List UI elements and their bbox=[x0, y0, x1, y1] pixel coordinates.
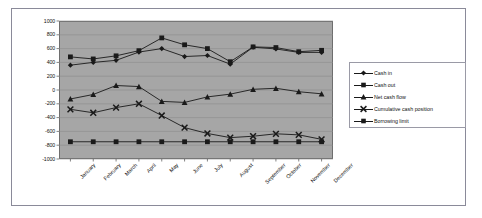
legend-label: Cumulative cash position bbox=[374, 106, 433, 112]
legend-marker-cross-icon bbox=[354, 104, 373, 114]
legend-marker-square-icon bbox=[354, 116, 373, 126]
legend-marker-diamond-icon bbox=[354, 68, 373, 78]
legend-marker-square-icon bbox=[354, 80, 373, 90]
legend-label: Borrowing limit bbox=[374, 118, 409, 124]
legend-item-net-cash-flow[interactable]: Net cash flow bbox=[354, 91, 406, 103]
legend-marker-triangle-icon bbox=[354, 92, 373, 102]
series-net-cash-flow bbox=[68, 83, 325, 105]
legend-item-cash-out[interactable]: Cash out bbox=[354, 79, 395, 91]
series-borrowing-limit bbox=[68, 139, 324, 144]
legend-label: Cash in bbox=[374, 70, 392, 76]
legend-label: Net cash flow bbox=[374, 94, 406, 100]
chart-legend: Cash inCash outNet cash flowCumulative c… bbox=[349, 62, 466, 128]
series-cash-in bbox=[68, 45, 324, 68]
legend-item-borrowing-limit[interactable]: Borrowing limit bbox=[354, 115, 409, 127]
series-cumulative-cash-position bbox=[68, 101, 325, 142]
legend-label: Cash out bbox=[374, 82, 395, 88]
series-cash-out bbox=[68, 36, 324, 65]
legend-item-cumulative-cash-position[interactable]: Cumulative cash position bbox=[354, 103, 433, 115]
legend-item-cash-in[interactable]: Cash in bbox=[354, 67, 392, 79]
